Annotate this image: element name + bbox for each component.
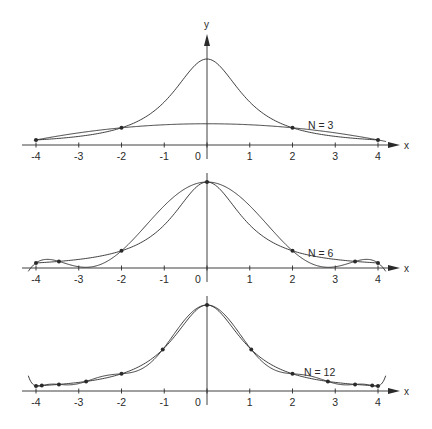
x-tick-label: 0	[195, 396, 201, 408]
x-tick-label: 3	[332, 396, 338, 408]
interpolation-node	[353, 382, 357, 386]
x-tick-label: 2	[290, 396, 296, 408]
y-axis-label: y	[204, 19, 209, 30]
x-tick-label: 2	[290, 150, 296, 162]
interpolation-node	[205, 180, 209, 184]
x-tick-label: -4	[31, 273, 40, 285]
interpolation-node	[57, 382, 61, 386]
interpolation-node	[120, 249, 124, 253]
x-tick-label: 2	[290, 273, 296, 285]
panel-n3: xy-4-3-2-101234N = 3	[22, 19, 409, 162]
interpolation-node	[120, 372, 124, 376]
interpolation-node	[161, 347, 165, 351]
x-axis-label: x	[404, 263, 409, 274]
x-tick-label: -3	[74, 150, 83, 162]
interpolation-node	[376, 384, 380, 388]
series-label: N = 3	[308, 119, 334, 131]
x-tick-label: 4	[375, 150, 381, 162]
x-tick-label: 1	[247, 273, 253, 285]
interpolation-node	[34, 384, 38, 388]
x-tick-label: 1	[247, 396, 253, 408]
y-axis-arrow-icon	[204, 34, 210, 46]
x-tick-label: -1	[160, 273, 169, 285]
x-axis-arrow-icon	[388, 265, 400, 271]
interpolation-node	[34, 138, 38, 142]
x-axis-label: x	[404, 386, 409, 397]
x-tick-label: -1	[160, 396, 169, 408]
x-tick-label: -1	[160, 150, 169, 162]
runge-interpolation-figure: xy-4-3-2-101234N = 3 x-4-3-2-101234N = 6…	[0, 0, 432, 429]
interpolation-node	[376, 138, 380, 142]
x-tick-label: -4	[31, 150, 40, 162]
x-tick-label: 3	[332, 273, 338, 285]
interpolation-node	[326, 379, 330, 383]
interpolation-node	[291, 126, 295, 130]
interpolation-node	[120, 126, 124, 130]
interpolation-node	[370, 384, 374, 388]
x-tick-label: 0	[195, 150, 201, 162]
interpolation-node	[84, 379, 88, 383]
interpolation-node	[205, 303, 209, 307]
x-tick-label: 4	[375, 396, 381, 408]
interpolation-node	[40, 384, 44, 388]
panel-n6: x-4-3-2-101234N = 6	[22, 173, 409, 285]
series-label: N = 12	[304, 366, 335, 378]
x-tick-label: -2	[117, 150, 126, 162]
x-tick-label: 4	[375, 273, 381, 285]
x-tick-label: -2	[117, 396, 126, 408]
x-tick-label: -3	[74, 273, 83, 285]
panel-n12: x-4-3-2-101234N = 12	[22, 296, 409, 408]
interpolation-node	[249, 347, 253, 351]
x-tick-label: 3	[332, 150, 338, 162]
x-tick-label: -2	[117, 273, 126, 285]
interpolation-node	[57, 259, 61, 263]
interpolation-node	[376, 261, 380, 265]
x-tick-label: -3	[74, 396, 83, 408]
chart-canvas: xy-4-3-2-101234N = 3 x-4-3-2-101234N = 6…	[0, 0, 432, 429]
x-axis-arrow-icon	[388, 388, 400, 394]
x-tick-label: 1	[247, 150, 253, 162]
x-tick-label: 0	[195, 273, 201, 285]
interpolation-node	[353, 259, 357, 263]
interpolation-node	[34, 261, 38, 265]
interpolation-node	[291, 249, 295, 253]
x-axis-label: x	[404, 140, 409, 151]
x-axis-arrow-icon	[388, 142, 400, 148]
x-tick-label: -4	[31, 396, 40, 408]
series-label: N = 6	[308, 247, 334, 259]
interpolation-node	[291, 372, 295, 376]
